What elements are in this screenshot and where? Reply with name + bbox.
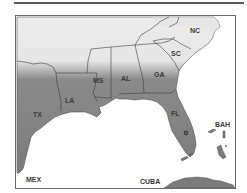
country-label-bah: BAH	[215, 121, 230, 128]
mainland-us	[17, 17, 220, 173]
state-label-ms: MS	[93, 77, 104, 84]
map-frame: NC SC GA AL MS LA TX FL MEX CUBA BAH	[15, 15, 236, 189]
state-label-al: AL	[121, 75, 131, 82]
country-label-mex: MEX	[26, 176, 42, 183]
southeast-us-map: NC SC GA AL MS LA TX FL MEX CUBA BAH	[16, 16, 235, 188]
state-label-sc: SC	[171, 50, 181, 57]
state-label-nc: NC	[190, 27, 200, 34]
top-rule	[14, 2, 244, 4]
state-label-tx: TX	[33, 111, 42, 118]
cuba-landmass	[164, 177, 235, 188]
state-label-fl: FL	[171, 110, 180, 117]
florida-marker-inner	[185, 132, 187, 134]
state-label-ga: GA	[154, 71, 165, 78]
state-label-la: LA	[65, 97, 74, 104]
country-label-cuba: CUBA	[140, 178, 160, 185]
